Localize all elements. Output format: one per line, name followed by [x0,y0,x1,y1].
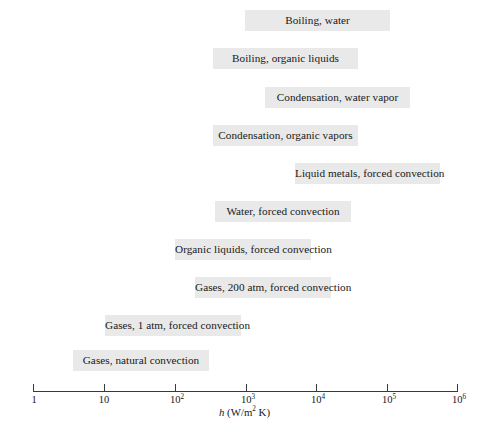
tick-exponent: 6 [462,393,466,401]
heat-transfer-coefficient-chart: Boiling, water Boiling, organic liquids … [0,0,489,422]
tick-mantissa: 10 [452,394,463,405]
axis-tick [104,384,105,392]
axis-title-unit-a: (W/m [224,406,252,418]
tick-exponent: 3 [251,393,255,401]
axis-tick-label: 102 [170,394,184,405]
axis-tick [316,384,317,392]
axis-tick-label: 1 [31,394,36,405]
axis-tick [387,384,388,392]
tick-mantissa: 1 [31,394,36,405]
axis-tick-label: 104 [311,394,325,405]
tick-mantissa: 10 [241,394,252,405]
axis-tick-label: 10 [99,394,110,405]
axis-tick-label: 103 [241,394,255,405]
axis-tick [457,384,458,392]
x-axis: 1 10 102 103 104 105 106 h (W/m2 K) [0,0,489,422]
tick-exponent: 2 [180,393,184,401]
tick-mantissa: 10 [382,394,393,405]
tick-mantissa: 10 [99,394,110,405]
axis-tick-label: 105 [382,394,396,405]
tick-exponent: 5 [392,393,396,401]
axis-tick [175,384,176,392]
axis-title-unit-b: K) [256,406,270,418]
tick-exponent: 4 [321,393,325,401]
tick-mantissa: 10 [311,394,322,405]
axis-tick [33,384,34,392]
axis-tick [246,384,247,392]
axis-title: h (W/m2 K) [0,406,489,418]
axis-tick-label: 106 [452,394,466,405]
tick-mantissa: 10 [170,394,181,405]
